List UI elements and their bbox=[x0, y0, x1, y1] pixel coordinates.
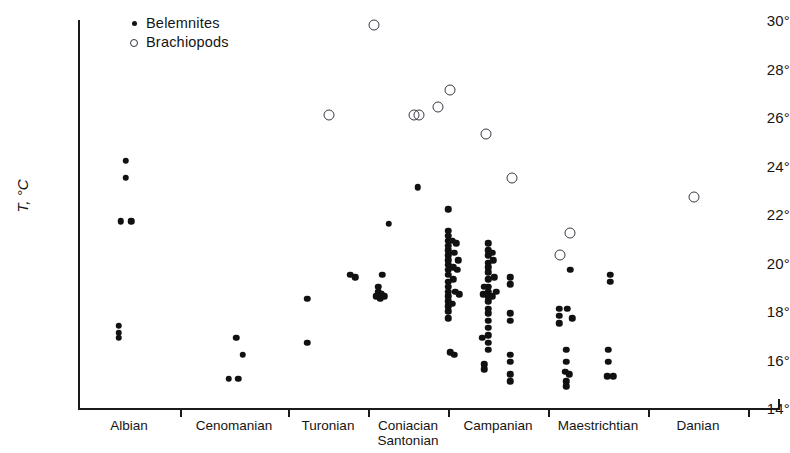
data-point-belemnite bbox=[304, 339, 311, 346]
legend-label-belemnites: Belemnites bbox=[146, 14, 220, 33]
y-tick-label: 16° bbox=[744, 351, 790, 368]
data-point-belemnite bbox=[123, 157, 130, 164]
data-point-belemnite bbox=[128, 218, 135, 225]
data-point-belemnite bbox=[481, 366, 488, 373]
y-tick-label: 26° bbox=[744, 109, 790, 126]
data-point-belemnite bbox=[225, 376, 232, 383]
data-point-belemnite bbox=[556, 313, 563, 320]
legend-label-brachiopods: Brachiopods bbox=[146, 33, 229, 52]
data-point-belemnite bbox=[507, 281, 514, 288]
x-axis-tick bbox=[648, 408, 650, 417]
data-point-belemnite bbox=[563, 347, 570, 354]
data-point-belemnite bbox=[507, 378, 514, 385]
data-point-belemnite bbox=[480, 291, 487, 298]
data-point-belemnite bbox=[489, 250, 496, 257]
data-point-brachiopod bbox=[445, 85, 456, 96]
data-point-belemnite bbox=[556, 305, 563, 312]
data-point-belemnite bbox=[569, 315, 576, 322]
data-point-belemnite bbox=[379, 271, 386, 278]
x-axis-tick bbox=[180, 408, 182, 417]
data-point-belemnite bbox=[605, 347, 612, 354]
data-point-belemnite bbox=[118, 218, 125, 225]
x-tick-label-albian: Albian bbox=[110, 418, 148, 433]
data-point-belemnite bbox=[607, 271, 614, 278]
data-point-brachiopod bbox=[555, 250, 566, 261]
data-point-belemnite bbox=[485, 240, 492, 247]
data-point-belemnite bbox=[491, 274, 498, 281]
y-tick-label: 14° bbox=[744, 400, 790, 417]
data-point-brachiopod bbox=[369, 19, 380, 30]
data-point-belemnite bbox=[507, 310, 514, 317]
data-point-belemnite bbox=[490, 257, 497, 264]
data-point-brachiopod bbox=[414, 109, 425, 120]
data-point-belemnite bbox=[507, 371, 514, 378]
data-point-belemnite bbox=[507, 317, 514, 324]
data-point-belemnite bbox=[414, 184, 421, 191]
data-point-brachiopod bbox=[433, 102, 444, 113]
x-tick-label-danian: Danian bbox=[677, 418, 720, 433]
data-point-belemnite bbox=[507, 274, 514, 281]
data-point-brachiopod bbox=[323, 109, 334, 120]
data-point-belemnite bbox=[451, 250, 458, 257]
x-tick-label-turonian: Turonian bbox=[302, 418, 355, 433]
data-point-belemnite bbox=[352, 274, 359, 281]
data-point-belemnite bbox=[451, 351, 458, 358]
data-point-belemnite bbox=[507, 351, 514, 358]
y-axis-title-text: T, °C bbox=[14, 180, 31, 213]
data-point-belemnite bbox=[567, 267, 574, 274]
data-point-belemnite bbox=[479, 334, 486, 341]
data-point-belemnite bbox=[485, 332, 492, 339]
scatter-plot-figure: T, °C 14°16°18°20°22°24°26°28°30° Albian… bbox=[0, 0, 790, 453]
data-point-belemnite bbox=[123, 174, 130, 181]
x-axis-tick bbox=[778, 399, 780, 410]
data-point-belemnite bbox=[454, 267, 461, 274]
y-tick-label: 18° bbox=[744, 303, 790, 320]
data-point-belemnite bbox=[445, 206, 452, 213]
y-tick-label: 22° bbox=[744, 206, 790, 223]
data-point-belemnite bbox=[455, 257, 462, 264]
x-tick-label-campanian: Campanian bbox=[463, 418, 532, 433]
x-tick-label-maestrichtian: Maestrichtian bbox=[558, 418, 638, 433]
x-tick-label-cenomanian: Cenomanian bbox=[196, 418, 273, 433]
data-point-belemnite bbox=[564, 305, 571, 312]
x-axis-tick bbox=[748, 408, 750, 417]
data-point-belemnite bbox=[449, 300, 456, 307]
data-point-belemnite bbox=[556, 320, 563, 327]
y-axis-title: T, °C bbox=[14, 180, 31, 213]
y-tick-label: 30° bbox=[744, 12, 790, 29]
data-point-brachiopod bbox=[481, 128, 492, 139]
legend-item-brachiopods: Brachiopods bbox=[126, 33, 229, 52]
data-point-belemnite bbox=[563, 383, 570, 390]
data-point-belemnite bbox=[485, 317, 492, 324]
data-point-belemnite bbox=[116, 334, 123, 341]
x-axis-tick bbox=[288, 408, 290, 417]
y-tick-label: 24° bbox=[744, 157, 790, 174]
open-circle-icon bbox=[126, 39, 142, 47]
data-point-belemnite bbox=[235, 376, 242, 383]
data-point-belemnite bbox=[239, 351, 246, 358]
data-point-belemnite bbox=[386, 220, 393, 227]
data-point-belemnite bbox=[566, 371, 573, 378]
x-axis-tick bbox=[448, 408, 450, 417]
data-point-belemnite bbox=[445, 308, 452, 315]
data-point-belemnite bbox=[304, 296, 311, 303]
filled-circle-icon bbox=[126, 21, 142, 26]
x-axis-tick bbox=[368, 408, 370, 417]
data-point-belemnite bbox=[489, 293, 496, 300]
data-point-belemnite bbox=[445, 315, 452, 322]
x-axis-line bbox=[78, 408, 778, 410]
legend-item-belemnites: Belemnites bbox=[126, 14, 229, 33]
y-tick-label: 28° bbox=[744, 60, 790, 77]
data-point-belemnite bbox=[507, 359, 514, 366]
data-point-belemnite bbox=[605, 359, 612, 366]
data-point-belemnite bbox=[607, 279, 614, 286]
data-point-belemnite bbox=[453, 240, 460, 247]
data-point-belemnite bbox=[233, 334, 240, 341]
data-point-brachiopod bbox=[689, 192, 700, 203]
data-point-brachiopod bbox=[507, 172, 518, 183]
data-point-belemnite bbox=[563, 359, 570, 366]
y-tick-label: 20° bbox=[744, 254, 790, 271]
data-point-belemnite bbox=[485, 310, 492, 317]
x-axis-tick bbox=[548, 408, 550, 417]
data-point-brachiopod bbox=[565, 228, 576, 239]
